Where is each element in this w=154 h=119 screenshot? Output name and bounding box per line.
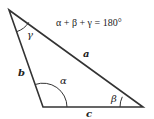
- alpha-label: α: [60, 75, 67, 86]
- angle-sum-formula: α + β + γ = 180°: [56, 17, 122, 28]
- beta-label: β: [110, 93, 117, 104]
- side-a-label: a: [83, 48, 89, 59]
- side-c-label: c: [86, 108, 92, 119]
- beta-arc: [120, 97, 122, 107]
- side-b-label: b: [18, 67, 25, 78]
- alpha-arc: [35, 83, 67, 107]
- gamma-label: γ: [27, 29, 33, 40]
- triangle-diagram: α + β + γ = 180° γ α β a b c: [0, 0, 154, 119]
